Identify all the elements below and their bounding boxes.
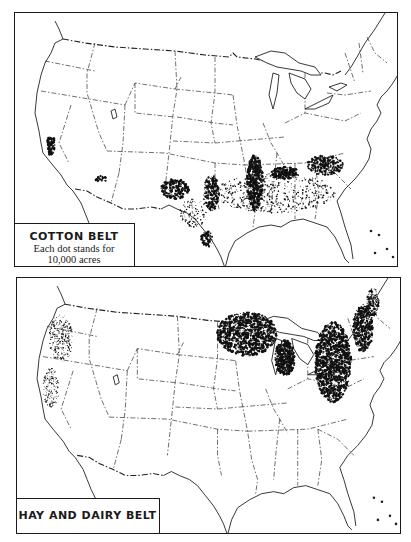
hay-dairy-dot xyxy=(257,331,259,333)
hay-dairy-dot xyxy=(275,353,277,355)
hay-dairy-dot xyxy=(317,381,318,382)
cotton-dot xyxy=(288,175,289,176)
hay-dairy-dot xyxy=(246,327,247,328)
hay-dairy-dot xyxy=(328,385,330,387)
hay-dairy-dot xyxy=(221,331,223,333)
cotton-dot xyxy=(308,182,309,183)
hay-dairy-dot xyxy=(244,329,247,332)
cotton-dot xyxy=(306,188,307,189)
hay-dairy-dot xyxy=(241,323,243,325)
cotton-dot xyxy=(213,197,215,199)
cotton-dot xyxy=(328,197,329,198)
hay-dairy-dot xyxy=(71,329,72,330)
hay-dairy-dot xyxy=(250,324,252,326)
hay-dairy-dot xyxy=(67,350,68,351)
hay-dairy-dot xyxy=(45,387,46,388)
cotton-dot xyxy=(195,208,196,209)
hay-dairy-dot xyxy=(234,329,236,331)
cotton-dot xyxy=(288,178,290,180)
hay-dairy-dot xyxy=(292,349,293,350)
hay-dairy-dot xyxy=(226,335,227,336)
cotton-dot xyxy=(321,191,322,192)
hay-dairy-dot xyxy=(235,323,236,324)
cotton-dot xyxy=(189,221,191,223)
cotton-dot xyxy=(332,165,334,167)
cotton-dot xyxy=(274,190,275,191)
hay-dairy-dot xyxy=(372,337,373,338)
hay-dairy-dot xyxy=(322,389,324,391)
hay-dairy-dot xyxy=(357,340,358,341)
cotton-dot xyxy=(254,197,255,198)
hay-dairy-dot xyxy=(53,399,54,400)
hay-dairy-dot xyxy=(255,340,258,343)
cotton-dot xyxy=(255,178,256,179)
hay-dairy-dot xyxy=(340,386,341,387)
cotton-dot xyxy=(184,210,186,212)
hay-dairy-dot xyxy=(57,392,58,393)
cotton-dot xyxy=(255,165,256,166)
hay-dairy-dot xyxy=(318,385,320,387)
cotton-dot xyxy=(277,185,278,186)
cotton-dot xyxy=(208,180,211,183)
hay-dairy-dot xyxy=(55,320,56,321)
cotton-dot xyxy=(243,205,244,206)
hay-dairy-dot xyxy=(317,359,320,362)
cotton-dot xyxy=(316,201,317,202)
hay-dairy-dot xyxy=(319,374,321,376)
cotton-dot xyxy=(177,192,179,194)
hay-dairy-dot xyxy=(252,353,255,356)
hay-dairy-dot xyxy=(68,329,69,330)
hay-dairy-dot xyxy=(341,379,342,380)
hay-dairy-dot xyxy=(344,376,346,378)
cotton-dot xyxy=(185,187,187,189)
hay-dairy-dot xyxy=(373,314,375,316)
hay-dairy-dot xyxy=(292,368,293,369)
cotton-dot xyxy=(312,166,314,168)
hay-dairy-dot xyxy=(326,344,327,345)
hay-dairy-dot xyxy=(67,333,68,334)
cotton-dot xyxy=(271,193,272,194)
cotton-dot xyxy=(256,206,257,207)
hay-dairy-dot xyxy=(224,326,225,327)
cotton-dot xyxy=(257,186,258,187)
cotton-dot xyxy=(276,170,277,171)
state-border xyxy=(211,57,215,143)
hay-dairy-dot xyxy=(265,322,267,324)
hay-dairy-dot xyxy=(246,338,247,339)
hay-dairy-dot xyxy=(57,330,58,331)
cotton-dot xyxy=(189,213,191,215)
state-border xyxy=(318,429,322,485)
cotton-dot xyxy=(242,197,243,198)
hay-dairy-dot xyxy=(335,327,336,328)
hay-dairy-dot xyxy=(336,347,338,349)
hay-dairy-dot xyxy=(262,345,264,347)
cotton-dot xyxy=(277,187,278,188)
hay-dairy-dot xyxy=(57,322,58,323)
cotton-dot xyxy=(292,196,294,198)
cotton-dot xyxy=(325,186,326,187)
hay-dairy-dot xyxy=(369,293,370,294)
hay-dairy-dot xyxy=(370,312,371,313)
hay-dairy-dot xyxy=(347,340,349,342)
cotton-dot xyxy=(258,206,259,207)
hay-dairy-dot xyxy=(66,325,67,326)
cotton-dot xyxy=(226,191,227,192)
hay-dairy-dot xyxy=(357,328,359,330)
hay-dairy-dot xyxy=(352,331,354,333)
cotton-dot xyxy=(273,173,274,174)
hay-dairy-dot xyxy=(270,345,271,346)
cotton-dot xyxy=(284,183,285,184)
hay-dairy-dot xyxy=(322,388,323,389)
hay-dairy-dot xyxy=(377,300,378,301)
hay-dairy-dot xyxy=(50,389,51,390)
hay-dairy-dot xyxy=(252,313,253,314)
cotton-dot xyxy=(297,175,299,177)
cotton-dot xyxy=(192,201,193,202)
hay-dairy-dot xyxy=(228,334,230,336)
hay-dairy-dot xyxy=(331,331,333,333)
cotton-dot xyxy=(223,202,224,203)
hay-dairy-dot xyxy=(249,354,250,355)
hay-dairy-dot xyxy=(334,364,335,365)
hay-dairy-dot xyxy=(243,351,245,353)
hay-dairy-dot xyxy=(332,370,333,371)
